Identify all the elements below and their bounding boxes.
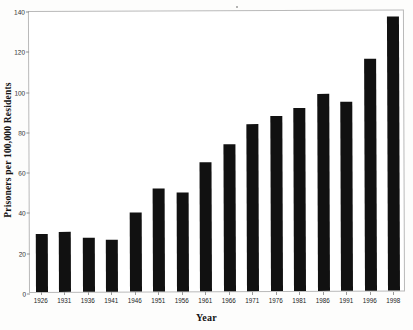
x-tick-mark [346, 292, 347, 295]
x-tick-mark [205, 292, 206, 295]
bar [387, 17, 400, 291]
y-tick-mark [26, 132, 29, 133]
bar [153, 189, 165, 292]
x-tick-label: 1941 [104, 297, 118, 304]
bar [200, 162, 212, 291]
x-tick-label: 1931 [57, 297, 71, 304]
x-tick-label: 1946 [128, 297, 142, 304]
x-tick-mark [64, 292, 65, 295]
x-tick-label: 1926 [34, 297, 48, 304]
x-tick-label: 1956 [175, 297, 189, 304]
y-tick-mark [27, 253, 30, 254]
y-axis-title: Prisoners per 100,000 Residents [3, 82, 13, 217]
x-tick-label: 1976 [269, 297, 283, 304]
bar [176, 193, 188, 292]
y-axis-ticks: 020406080100120140 [29, 11, 403, 12]
x-axis-ticks: 1926193119361941194619511956196119661971… [29, 295, 405, 309]
bar [129, 213, 141, 292]
x-tick-mark [323, 292, 324, 295]
bar-series [29, 11, 403, 12]
x-tick-mark [299, 292, 300, 295]
bar [270, 116, 283, 291]
bar [364, 59, 377, 291]
x-tick-mark [182, 292, 183, 295]
y-axis-title-wrapper: Prisoners per 100,000 Residents [0, 0, 16, 300]
x-tick-label: 1981 [292, 297, 306, 304]
x-tick-label: 1991 [339, 297, 353, 304]
bar [106, 239, 118, 291]
x-tick-mark [135, 292, 136, 295]
bar [247, 124, 260, 291]
x-tick-mark [252, 292, 253, 295]
x-tick-label: 1966 [222, 297, 236, 304]
x-tick-mark [88, 292, 89, 295]
x-tick-label: 1996 [363, 297, 377, 304]
bar [294, 108, 307, 291]
x-tick-mark [229, 292, 230, 295]
x-tick-label: 1986 [316, 297, 330, 304]
x-tick-mark [393, 292, 394, 295]
bar [59, 231, 71, 291]
scan-artifact-speck [236, 6, 238, 8]
x-tick-label: 1971 [245, 297, 259, 304]
y-tick-mark [26, 11, 29, 12]
x-tick-mark [158, 292, 159, 295]
x-axis-title: Year [0, 312, 413, 323]
y-tick-mark [26, 92, 29, 93]
bar-chart-figure: Prisoners per 100,000 Residents 02040608… [0, 0, 413, 330]
x-tick-mark [111, 292, 112, 295]
x-tick-label: 1936 [81, 297, 95, 304]
bar [223, 144, 236, 291]
bar [317, 93, 330, 290]
plot-inner: 020406080100120140 [29, 11, 404, 292]
y-tick-mark [26, 52, 29, 53]
x-tick-label: 1951 [151, 297, 165, 304]
bar [83, 237, 95, 291]
x-tick-label: 1998 [386, 297, 400, 304]
x-tick-mark [370, 292, 371, 295]
y-tick-mark [27, 173, 30, 174]
bar [36, 234, 48, 292]
x-tick-mark [276, 292, 277, 295]
x-tick-label: 1961 [198, 297, 212, 304]
plot-area: 020406080100120140 [28, 10, 405, 293]
bar [341, 101, 354, 290]
x-tick-mark [41, 292, 42, 295]
y-tick-mark [27, 213, 30, 214]
